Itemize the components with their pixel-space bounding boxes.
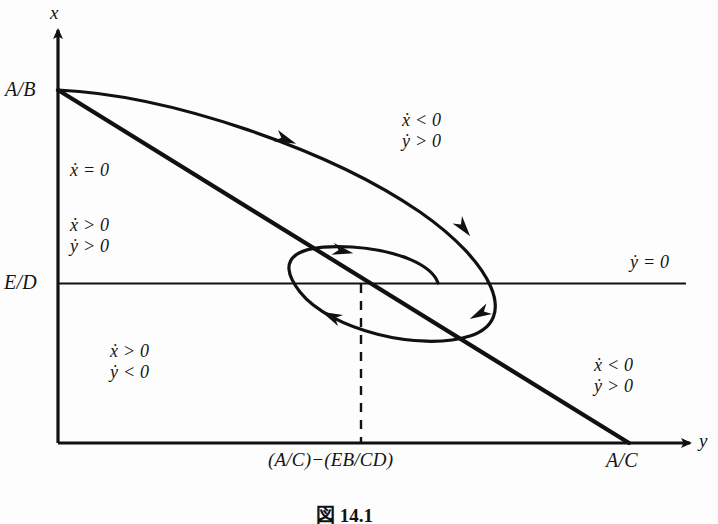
region-left-middle-line2: ẏ > 0 [70, 236, 109, 257]
figure-caption: 図 14.1 [316, 500, 373, 524]
region-lower-left-line2: ẏ < 0 [110, 362, 149, 383]
region-lower-right-line2: ẏ > 0 [594, 376, 633, 397]
region-lower-left-line1: ẋ > 0 [110, 341, 149, 362]
y-intercept-label-ac: A/C [606, 449, 638, 472]
phase-diagram-figure: x y A/B E/D A/C (A/C)−(EB/CD) ẋ = 0 ẏ = … [0, 0, 718, 524]
region-lower-right-line1: ẋ < 0 [594, 355, 633, 376]
trajectory-arrow-2 [453, 216, 475, 240]
x-value-label-ed: E/D [4, 271, 37, 294]
region-upper-right-line2: ẏ > 0 [402, 131, 441, 152]
trajectory-arrow-5 [319, 306, 343, 326]
xdot-zero-label: ẋ = 0 [70, 160, 109, 181]
region-upper-right-line1: ẋ < 0 [402, 110, 441, 131]
ydot-zero-label: ẏ = 0 [630, 252, 669, 273]
phase-diagram-canvas [0, 0, 718, 524]
region-label-left-middle: ẋ > 0 ẏ > 0 [70, 215, 109, 256]
y-tick-label-equilibrium: (A/C)−(EB/CD) [268, 449, 393, 471]
region-label-lower-right: ẋ < 0 ẏ > 0 [594, 355, 633, 396]
x-axis-label: x [50, 2, 59, 24]
region-label-lower-left: ẋ > 0 ẏ < 0 [110, 341, 149, 382]
region-left-middle-line1: ẋ > 0 [70, 215, 109, 236]
trajectory-arrow-3 [467, 303, 492, 324]
y-axis-label: y [699, 430, 708, 452]
x-intercept-label-ab: A/B [5, 78, 36, 101]
region-label-upper-right: ẋ < 0 ẏ > 0 [402, 110, 441, 151]
xdot-zero-isocline [58, 90, 629, 443]
trajectory-arrowheads [274, 130, 492, 326]
